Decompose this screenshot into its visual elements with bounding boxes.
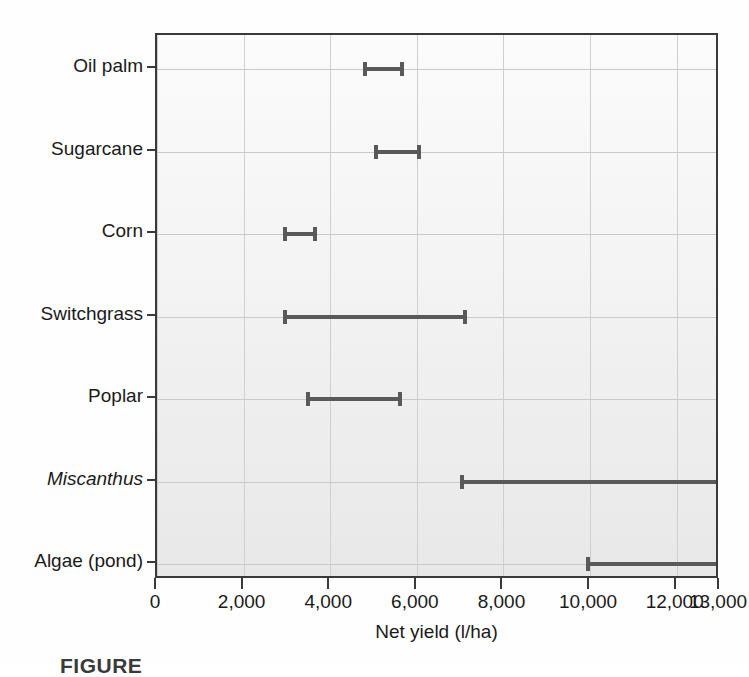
x-axis-tick bbox=[414, 578, 416, 589]
range-marker bbox=[283, 227, 318, 241]
x-axis-tick-label: 10,000 bbox=[543, 592, 633, 612]
range-marker bbox=[363, 62, 404, 76]
range-marker bbox=[283, 310, 467, 324]
y-axis-tick bbox=[147, 66, 157, 68]
range-cap-high bbox=[313, 227, 317, 241]
x-axis-tick bbox=[327, 578, 329, 589]
horizontal-gridline bbox=[157, 69, 716, 70]
x-tick-value-2000: 2,000 bbox=[218, 591, 266, 612]
x-axis-tick bbox=[587, 578, 589, 589]
range-stem bbox=[306, 397, 401, 401]
range-stem bbox=[363, 67, 404, 71]
x-axis-tick bbox=[674, 578, 676, 589]
x-axis-tick bbox=[154, 578, 156, 589]
category-label-corn: Corn bbox=[3, 221, 143, 240]
horizontal-gridline bbox=[157, 152, 716, 153]
category-label-algae-pond: Algae (pond) bbox=[3, 551, 143, 570]
y-axis-tick-label: Poplar bbox=[0, 386, 143, 408]
range-cap-high bbox=[716, 557, 718, 571]
x-axis-tick-label: 8,000 bbox=[456, 592, 546, 612]
x-tick-value-8000: 8,000 bbox=[478, 591, 526, 612]
range-cap-low bbox=[460, 475, 464, 489]
range-stem bbox=[283, 315, 467, 319]
x-axis-tick bbox=[500, 578, 502, 589]
range-cap-low bbox=[586, 557, 590, 571]
range-cap-high bbox=[716, 475, 718, 489]
vertical-gridline bbox=[157, 35, 158, 576]
y-axis-tick bbox=[147, 314, 157, 316]
range-marker bbox=[460, 475, 718, 489]
y-axis-tick-label: Switchgrass bbox=[0, 304, 143, 326]
y-axis-tick-label: Miscanthus bbox=[0, 469, 143, 491]
vertical-gridline bbox=[503, 35, 504, 576]
x-tick-value-4000: 4,000 bbox=[304, 591, 352, 612]
x-axis-tick-label: 2,000 bbox=[197, 592, 287, 612]
range-marker bbox=[306, 392, 401, 406]
figure-caption: FIGURE bbox=[60, 654, 142, 677]
y-axis-tick-label: Algae (pond) bbox=[0, 551, 143, 573]
x-tick-value-6000: 6,000 bbox=[391, 591, 439, 612]
horizontal-gridline bbox=[157, 234, 716, 235]
x-axis-title: Net yield (l/ha) bbox=[155, 622, 718, 641]
x-tick-value-13000: 13,000 bbox=[689, 591, 747, 612]
range-cap-low bbox=[374, 145, 378, 159]
range-cap-low bbox=[306, 392, 310, 406]
range-cap-low bbox=[363, 62, 367, 76]
y-axis-tick-label: Corn bbox=[0, 221, 143, 243]
range-stem bbox=[374, 150, 422, 154]
range-cap-high bbox=[463, 310, 467, 324]
y-axis-tick-label: Sugarcane bbox=[0, 139, 143, 161]
range-marker bbox=[586, 557, 718, 571]
y-axis-tick bbox=[147, 561, 157, 563]
y-axis-tick bbox=[147, 149, 157, 151]
vertical-gridline bbox=[244, 35, 245, 576]
x-tick-value-0: 0 bbox=[150, 591, 161, 612]
x-axis-tick bbox=[717, 578, 719, 589]
vertical-gridline bbox=[677, 35, 678, 576]
x-axis-tick-label: 13,000 bbox=[673, 592, 749, 612]
range-cap-low bbox=[283, 227, 287, 241]
range-cap-low bbox=[283, 310, 287, 324]
category-label-oil-palm: Oil palm bbox=[3, 56, 143, 75]
y-axis-tick bbox=[147, 396, 157, 398]
range-stem bbox=[460, 480, 718, 484]
category-label-sugarcane: Sugarcane bbox=[3, 139, 143, 158]
range-marker bbox=[374, 145, 422, 159]
category-label-miscanthus: Miscanthus bbox=[3, 469, 143, 488]
y-axis-tick bbox=[147, 231, 157, 233]
x-axis-tick-label: 6,000 bbox=[370, 592, 460, 612]
range-stem bbox=[586, 562, 718, 566]
plot-area bbox=[155, 33, 718, 578]
range-stem bbox=[283, 232, 318, 236]
category-label-switchgrass: Switchgrass bbox=[3, 304, 143, 323]
range-cap-high bbox=[398, 392, 402, 406]
x-tick-value-10000: 10,000 bbox=[559, 591, 617, 612]
y-axis-tick bbox=[147, 479, 157, 481]
x-axis-tick-label: 0 bbox=[110, 592, 200, 612]
vertical-gridline bbox=[590, 35, 591, 576]
x-axis-tick bbox=[241, 578, 243, 589]
y-axis-tick-label: Oil palm bbox=[0, 56, 143, 78]
category-label-poplar: Poplar bbox=[3, 386, 143, 405]
range-cap-high bbox=[400, 62, 404, 76]
horizontal-gridline bbox=[157, 399, 716, 400]
range-cap-high bbox=[417, 145, 421, 159]
x-axis-tick-label: 4,000 bbox=[283, 592, 373, 612]
vertical-gridline bbox=[417, 35, 418, 576]
vertical-gridline bbox=[330, 35, 331, 576]
